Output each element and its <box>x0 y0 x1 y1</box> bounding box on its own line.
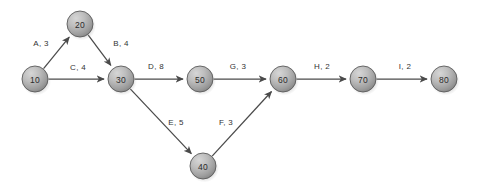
node-label-40: 40 <box>198 162 208 172</box>
edges-layer <box>44 35 427 156</box>
edge-label-g: G, 3 <box>230 62 247 71</box>
node-label-30: 30 <box>116 75 126 85</box>
node-10[interactable]: 10 <box>22 66 51 95</box>
edge-label-b: B, 4 <box>113 39 129 48</box>
edge-label-a: A, 3 <box>33 39 49 48</box>
edge-label-e: E, 5 <box>168 118 184 127</box>
node-label-60: 60 <box>278 75 288 85</box>
node-label-10: 10 <box>30 75 40 85</box>
edge-label-i: I, 2 <box>399 62 412 71</box>
node-label-50: 50 <box>195 75 205 85</box>
edge-label-f: F, 3 <box>219 118 233 127</box>
edge-label-d: D, 8 <box>148 62 164 71</box>
edge-b <box>88 35 111 66</box>
network-diagram: 1020304050607080 A, 3B, 4C, 4D, 8E, 5F, … <box>0 0 477 193</box>
node-50[interactable]: 50 <box>187 66 216 95</box>
node-label-70: 70 <box>358 75 368 85</box>
edge-label-h: H, 2 <box>314 62 330 71</box>
node-80[interactable]: 80 <box>431 66 460 95</box>
nodes-layer: 1020304050607080 <box>22 11 460 182</box>
graph-canvas: 1020304050607080 A, 3B, 4C, 4D, 8E, 5F, … <box>0 0 477 193</box>
node-40[interactable]: 40 <box>190 153 219 182</box>
node-60[interactable]: 60 <box>270 66 299 95</box>
node-label-80: 80 <box>439 75 449 85</box>
node-30[interactable]: 30 <box>108 66 137 95</box>
node-20[interactable]: 20 <box>67 11 96 40</box>
node-70[interactable]: 70 <box>350 66 379 95</box>
edge-label-c: C, 4 <box>70 63 86 72</box>
node-label-20: 20 <box>75 20 85 30</box>
